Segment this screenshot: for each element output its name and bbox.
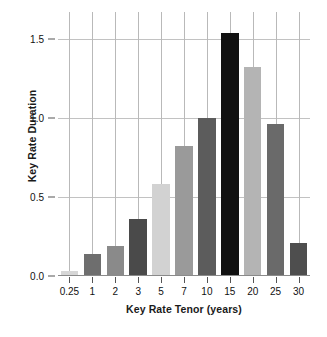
x-axis-title: Key Rate Tenor (years) [58,303,310,315]
vertical-gridline [299,12,300,276]
x-axis-tick-mark [207,277,208,283]
x-axis-tick-mark [253,277,254,283]
bar [84,254,101,276]
x-axis-tick-mark [161,277,162,283]
x-axis-tick-label: 3 [135,286,141,297]
y-axis-tick-mark [48,38,55,39]
x-axis-tick-mark [92,277,93,283]
y-axis-title: Key Rate Duration [26,41,38,231]
y-axis-tick-mark [48,196,55,197]
bar [244,67,261,276]
y-axis-tick-label: 1.0 [0,112,44,123]
x-axis-tick-label: 0.25 [60,286,79,297]
bar [221,33,238,276]
plot-area [58,12,310,276]
bar [152,184,169,276]
x-axis-tick-mark [299,277,300,283]
x-axis-tick-mark [115,277,116,283]
x-axis-tick-mark [69,277,70,283]
bar [175,146,192,276]
y-axis-tick-mark [48,117,55,118]
vertical-gridline [115,12,116,276]
x-axis-tick-label: 7 [181,286,187,297]
x-axis-tick-label: 10 [201,286,212,297]
x-axis-tick-mark [138,277,139,283]
bar [198,118,215,276]
vertical-gridline [92,12,93,276]
x-axis-tick-label: 1 [90,286,96,297]
bar [267,124,284,276]
x-axis-tick-label: 5 [158,286,164,297]
y-axis-tick-label: 0.5 [0,191,44,202]
chart-figure: Key Rate Duration 0.00.51.01.5 0.2512357… [0,0,327,337]
x-axis-tick-label: 30 [293,286,304,297]
y-axis-tick-mark [48,276,55,277]
x-axis-tick-label: 15 [224,286,235,297]
x-axis-tick-label: 2 [112,286,118,297]
bar [129,219,146,276]
y-axis-tick-label: 0.0 [0,271,44,282]
x-axis-tick-mark [184,277,185,283]
vertical-gridline [69,12,70,276]
x-axis-tick-mark [230,277,231,283]
x-axis-tick-label: 25 [270,286,281,297]
bar [107,246,124,276]
x-axis-line [58,275,310,276]
bar [290,243,307,276]
x-axis-tick-mark [276,277,277,283]
y-axis-tick-label: 1.5 [0,33,44,44]
x-axis-tick-label: 20 [247,286,258,297]
